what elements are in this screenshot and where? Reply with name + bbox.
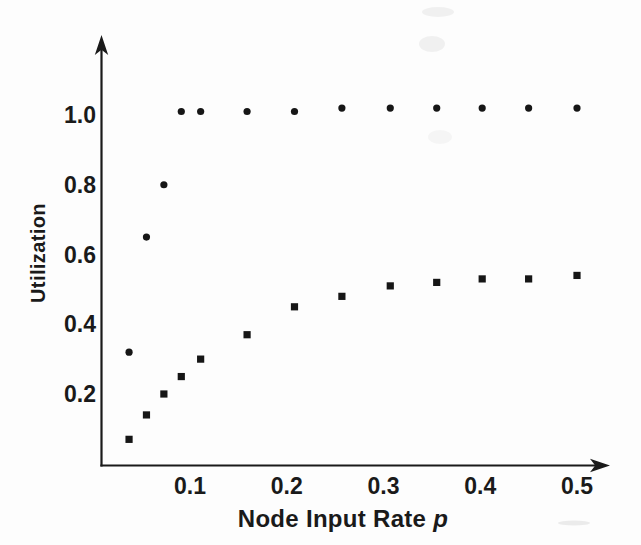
- data-point-square: [479, 275, 486, 282]
- scan-smudge: [558, 521, 590, 526]
- x-axis-title-text: Node Input Rate: [238, 505, 427, 532]
- data-point-square: [387, 282, 394, 289]
- data-point-circle: [479, 104, 486, 111]
- data-point-circle: [160, 181, 167, 188]
- data-point-circle: [338, 104, 345, 111]
- x-axis-tick-labels: 0.10.20.30.40.5: [174, 473, 593, 499]
- y-tick-label: 0.4: [64, 311, 96, 337]
- data-point-circle: [243, 108, 250, 115]
- y-axis-title: Utilization: [27, 203, 49, 303]
- data-point-square: [243, 331, 250, 338]
- x-tick-label: 0.5: [561, 473, 593, 499]
- y-tick-label: 0.8: [64, 172, 96, 198]
- data-points: [125, 104, 580, 443]
- data-point-square: [338, 293, 345, 300]
- data-point-square: [143, 411, 150, 418]
- x-axis-title-variable: p: [432, 505, 448, 532]
- data-point-circle: [573, 104, 580, 111]
- data-point-square: [291, 303, 298, 310]
- y-tick-label: 1.0: [64, 102, 96, 128]
- data-point-circle: [178, 108, 185, 115]
- data-point-circle: [387, 104, 394, 111]
- scan-smudge: [419, 36, 445, 52]
- scan-smudge: [428, 130, 452, 144]
- y-tick-label: 0.6: [64, 242, 96, 268]
- data-point-circle: [291, 108, 298, 115]
- x-axis-title: Node Input Ratep: [238, 505, 448, 532]
- data-point-square: [125, 436, 132, 443]
- data-point-square: [160, 390, 167, 397]
- y-axis-tick-labels: 0.20.40.60.81.0: [64, 102, 96, 407]
- axes: [95, 35, 610, 472]
- x-tick-label: 0.4: [464, 473, 496, 499]
- data-point-square: [178, 373, 185, 380]
- data-point-square: [573, 272, 580, 279]
- data-point-circle: [433, 104, 440, 111]
- scan-artifacts: [419, 7, 590, 526]
- data-point-square: [433, 279, 440, 286]
- data-point-circle: [143, 233, 150, 240]
- data-point-circle: [125, 349, 132, 356]
- scan-smudge: [422, 7, 454, 17]
- data-point-square: [525, 275, 532, 282]
- x-tick-label: 0.1: [174, 473, 206, 499]
- x-tick-label: 0.3: [368, 473, 400, 499]
- scanned-figure-page: 0.20.40.60.81.0 0.10.20.30.40.5 Utilizat…: [0, 0, 641, 545]
- x-tick-label: 0.2: [271, 473, 303, 499]
- data-point-square: [197, 356, 204, 363]
- data-point-circle: [197, 108, 204, 115]
- data-point-circle: [525, 104, 532, 111]
- utilization-scatter-plot: 0.20.40.60.81.0 0.10.20.30.40.5 Utilizat…: [0, 0, 641, 545]
- y-tick-label: 0.2: [64, 381, 96, 407]
